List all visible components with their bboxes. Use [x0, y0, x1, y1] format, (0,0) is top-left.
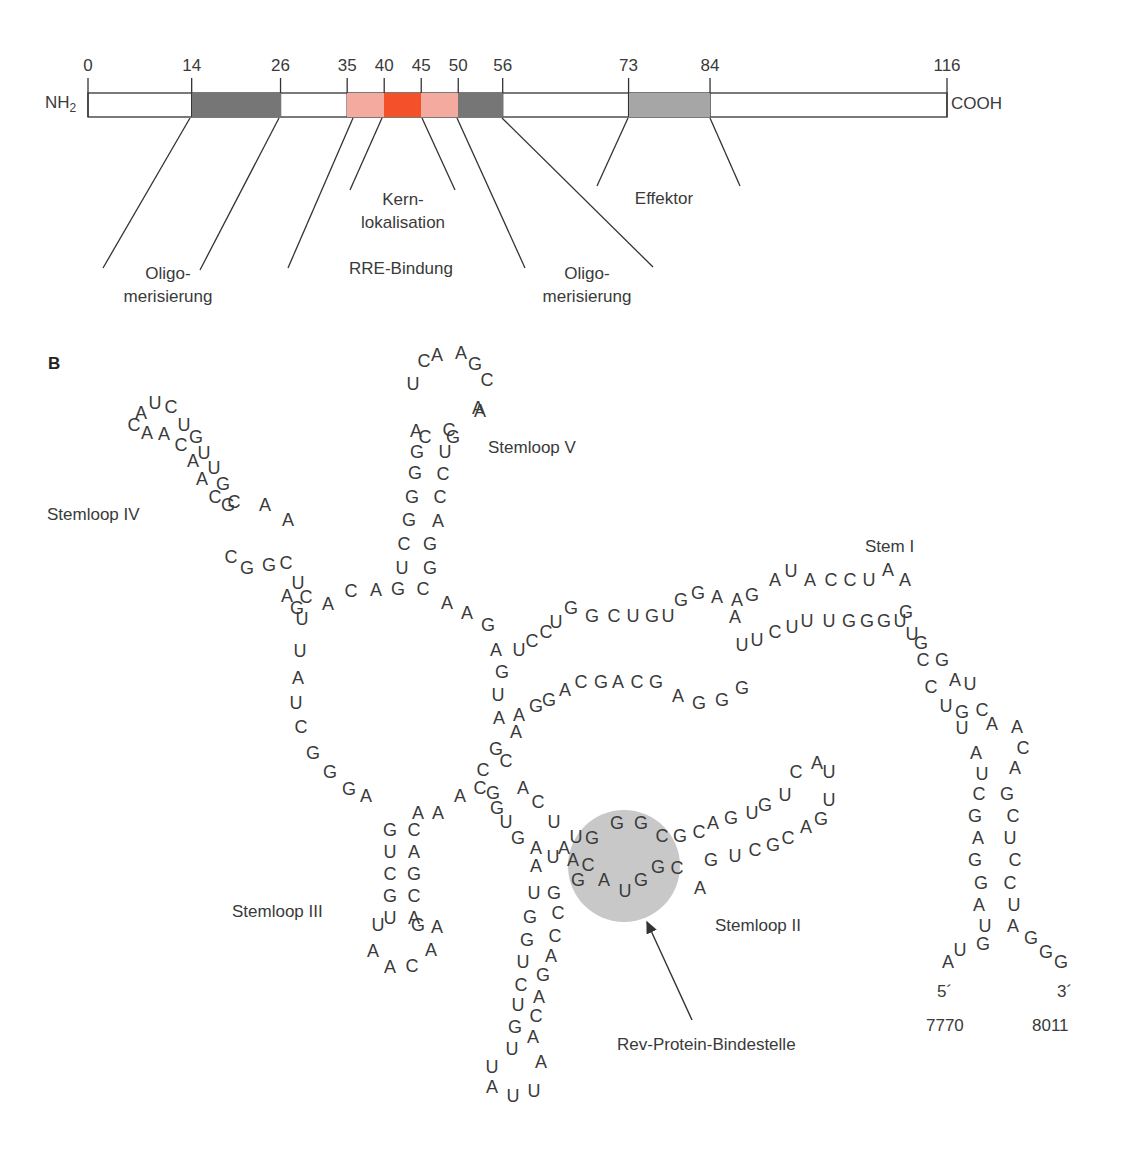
- nucleotide: U: [746, 804, 759, 822]
- nucleotide: C: [917, 651, 930, 669]
- nucleotide: A: [461, 604, 473, 622]
- nucleotide: C: [526, 632, 539, 650]
- nucleotide: A: [804, 571, 816, 589]
- nucleotide: G: [935, 651, 949, 669]
- structure-label: Stemloop II: [715, 916, 801, 936]
- nucleotide: G: [877, 612, 891, 630]
- nucleotide: G: [974, 874, 988, 892]
- nucleotide: G: [383, 821, 397, 839]
- nucleotide: A: [196, 470, 208, 488]
- nucleotide: C: [1009, 851, 1022, 869]
- structure-label: Rev-Protein-Bindestelle: [617, 1035, 796, 1055]
- nucleotide: G: [645, 607, 659, 625]
- nucleotide: U: [570, 828, 583, 846]
- nucleotide: G: [571, 871, 585, 889]
- structure-label: 8011: [1032, 1016, 1069, 1036]
- nucleotide: G: [323, 763, 337, 781]
- nucleotide: C: [345, 582, 358, 600]
- nucleotide: G: [446, 428, 460, 446]
- nucleotide: G: [523, 908, 537, 926]
- nucleotide: C: [419, 428, 432, 446]
- nucleotide: G: [692, 694, 706, 712]
- nucleotide: G: [408, 464, 422, 482]
- nucleotide: A: [535, 1053, 547, 1071]
- nucleotide: G: [481, 616, 495, 634]
- nucleotide: A: [811, 754, 823, 772]
- nucleotide: A: [1009, 759, 1021, 777]
- nucleotide: U: [823, 791, 836, 809]
- nucleotide: U: [492, 686, 505, 704]
- nucleotide: A: [986, 715, 998, 733]
- nucleotide: A: [598, 871, 610, 889]
- nucleotide: A: [970, 744, 982, 762]
- nucleotide: A: [510, 723, 522, 741]
- nucleotide: G: [402, 511, 416, 529]
- nucleotide: U: [506, 1040, 519, 1058]
- nucleotide: U: [512, 996, 525, 1014]
- nucleotide: A: [559, 681, 571, 699]
- structure-label: Stemloop III: [232, 902, 323, 922]
- nucleotide: G: [306, 744, 320, 762]
- nucleotide: C: [165, 398, 178, 416]
- nucleotide: U: [507, 1087, 520, 1105]
- nucleotide: G: [860, 612, 874, 630]
- nucleotide: A: [493, 709, 505, 727]
- nucleotide: U: [384, 909, 397, 927]
- nucleotide: G: [651, 858, 665, 876]
- nucleotide: U: [662, 607, 675, 625]
- nucleotide: G: [585, 607, 599, 625]
- nucleotide: U: [396, 559, 409, 577]
- nucleotide: G: [634, 814, 648, 832]
- nucleotide: A: [454, 787, 466, 805]
- nucleotide: G: [745, 586, 759, 604]
- nucleotide: G: [610, 814, 624, 832]
- nucleotide: C: [1004, 874, 1017, 892]
- nucleotide: A: [800, 818, 812, 836]
- nucleotide: A: [711, 588, 723, 606]
- nucleotide: U: [736, 636, 749, 654]
- nucleotide: C: [790, 763, 803, 781]
- nucleotide: A: [282, 511, 294, 529]
- nucleotide: U: [296, 610, 309, 628]
- nucleotide: G: [594, 673, 608, 691]
- nucleotide: G: [634, 871, 648, 889]
- nucleotide: C: [500, 752, 513, 770]
- nucleotide: G: [758, 796, 772, 814]
- nucleotide: C: [1017, 739, 1030, 757]
- nucleotide: U: [513, 641, 526, 659]
- nucleotide: C: [530, 1007, 543, 1025]
- structure-label: Stemloop V: [488, 438, 576, 458]
- nucleotide: G: [1000, 785, 1014, 803]
- nucleotide: A: [949, 671, 961, 689]
- nucleotide: G: [1039, 943, 1053, 961]
- nucleotide: C: [671, 859, 684, 877]
- structure-label: 5´: [937, 982, 952, 1002]
- nucleotide: U: [785, 562, 798, 580]
- nucleotide: G: [405, 488, 419, 506]
- nucleotide: C: [408, 821, 421, 839]
- nucleotide: A: [899, 571, 911, 589]
- structure-label: 7770: [926, 1016, 964, 1036]
- nucleotide: A: [882, 561, 894, 579]
- nucleotide: G: [814, 810, 828, 828]
- nucleotide: A: [513, 706, 525, 724]
- nucleotide: C: [844, 571, 857, 589]
- nucleotide: A: [490, 641, 502, 659]
- nucleotide: A: [486, 1078, 498, 1096]
- nucleotide: C: [477, 761, 490, 779]
- nucleotide: G: [976, 935, 990, 953]
- nucleotide: C: [418, 352, 431, 370]
- nucleotide: U: [627, 607, 640, 625]
- nucleotide: A: [425, 941, 437, 959]
- structure-label: Stemloop IV: [47, 505, 140, 525]
- nucleotide: G: [536, 966, 550, 984]
- nucleotide: G: [968, 851, 982, 869]
- nucleotide: G: [704, 851, 718, 869]
- nucleotide: C: [575, 673, 588, 691]
- nucleotide: A: [530, 857, 542, 875]
- nucleotide: A: [973, 896, 985, 914]
- nucleotide: U: [547, 848, 560, 866]
- nucleotide: C: [549, 927, 562, 945]
- nucleotide: U: [1008, 896, 1021, 914]
- nucleotide: A: [432, 512, 444, 530]
